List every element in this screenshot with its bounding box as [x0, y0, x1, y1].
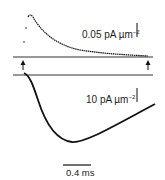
upper-scale-label: 0.05 pA µm−2 [82, 27, 140, 40]
lower-scale-text: 10 pA µm [86, 94, 128, 105]
upper-scale-exponent: −2 [133, 29, 140, 35]
time-scale-label: 0.4 ms [66, 168, 95, 178]
lower-scale-exponent: −2 [128, 94, 135, 100]
time-scale-text: 0.4 ms [66, 167, 95, 178]
lower-trace [24, 73, 155, 142]
upper-scale-text: 0.05 pA µm [82, 29, 133, 40]
lower-scale-label: 10 pA µm−2 [86, 92, 135, 105]
left-arrow-icon [21, 60, 26, 70]
right-arrow-icon [146, 60, 151, 70]
